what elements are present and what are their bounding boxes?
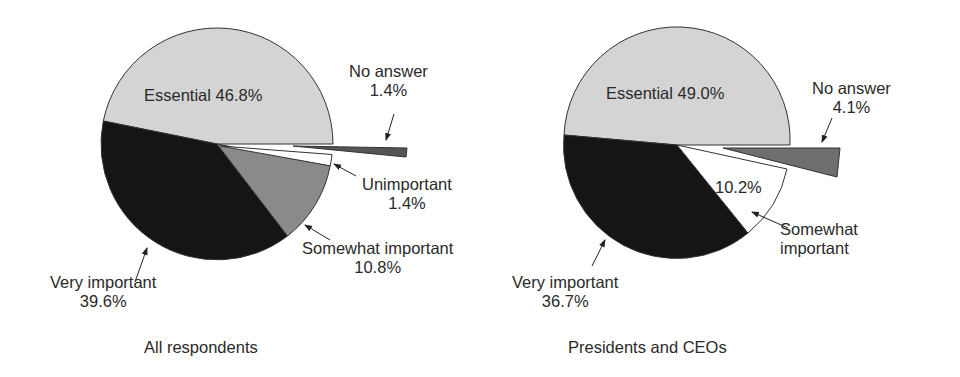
label-name: Very important xyxy=(50,273,156,292)
left-somewhat-label: Somewhat important 10.8% xyxy=(302,239,453,277)
label-name: Very important xyxy=(512,273,618,292)
label-pct: 36.7% xyxy=(512,292,618,311)
left-very-label: Very important 39.6% xyxy=(50,273,156,311)
pie-charts xyxy=(0,0,960,377)
label-pct: 39.6% xyxy=(50,292,156,311)
left-no-answer-label: No answer 1.4% xyxy=(349,62,428,100)
right-somewhat-label: Somewhat important xyxy=(780,220,858,258)
label-name: No answer xyxy=(349,62,428,81)
left-chart-title: All respondents xyxy=(144,338,258,357)
right-essential-label: Essential 49.0% xyxy=(606,84,724,103)
left-essential-label: Essential 46.8% xyxy=(144,86,262,105)
right-somewhat-pct: 10.2% xyxy=(715,178,762,197)
right-no-answer-label: No answer 4.1% xyxy=(812,79,891,117)
label-pct: 4.1% xyxy=(812,98,891,117)
label-name: No answer xyxy=(812,79,891,98)
label-name: Unimportant xyxy=(362,175,452,194)
right-very-label: Very important 36.7% xyxy=(512,273,618,311)
right-chart-title: Presidents and CEOs xyxy=(568,338,727,357)
label-pct: 1.4% xyxy=(349,81,428,100)
label-name: Somewhat important xyxy=(302,239,453,258)
label-name-1: Somewhat xyxy=(780,220,858,239)
label-pct: 10.8% xyxy=(302,258,453,277)
label-pct: 1.4% xyxy=(362,194,452,213)
left-unimportant-label: Unimportant 1.4% xyxy=(362,175,452,213)
label-name-2: important xyxy=(780,239,858,258)
